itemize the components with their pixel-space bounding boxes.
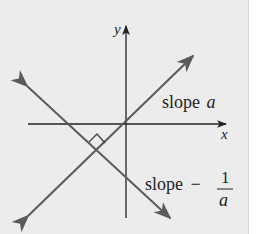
right-angle-marker bbox=[89, 134, 105, 143]
y-axis-label: y bbox=[112, 21, 121, 37]
slope-a-label: slope a bbox=[162, 92, 216, 112]
fraction-numerator: 1 bbox=[221, 168, 230, 187]
perpendicular-lines-diagram: y x slope a slope − 1 a bbox=[0, 0, 258, 234]
fraction-denominator: a bbox=[219, 190, 228, 210]
x-axis-label: x bbox=[220, 126, 228, 142]
figure-panel: y x slope a slope − 1 a bbox=[0, 0, 249, 234]
line-slope-neg-reciprocal bbox=[27, 86, 170, 218]
slope-neg-reciprocal-label: slope − bbox=[145, 174, 201, 194]
